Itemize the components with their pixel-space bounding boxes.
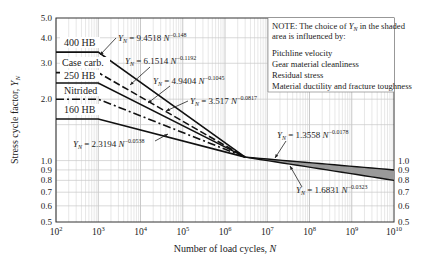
equation-label: YN = 4.9404 N−0.1045 bbox=[153, 75, 225, 87]
x-tick-label: 104 bbox=[134, 225, 148, 237]
note-line: area is influenced by: bbox=[272, 31, 346, 41]
arrowhead-icon bbox=[275, 154, 278, 158]
equation-label: YN = 6.1514 N−0.1192 bbox=[125, 55, 196, 67]
y-tick-label-right: 0.8 bbox=[398, 175, 410, 185]
y-tick-label-left: 2.0 bbox=[41, 94, 53, 104]
y-tick-label-left: 1.0 bbox=[41, 156, 53, 166]
y-tick-label-left: 0.8 bbox=[41, 175, 53, 185]
equation-label: YN = 3.517 N−0.0817 bbox=[190, 95, 257, 107]
material-label: 400 HB bbox=[64, 37, 96, 48]
x-tick-label: 108 bbox=[303, 225, 316, 237]
y-tick-label-left: 0.9 bbox=[41, 165, 53, 175]
equation-label: YN = 1.3558 N−0.0178 bbox=[277, 129, 349, 141]
y-tick-label-right: 1.0 bbox=[398, 156, 410, 166]
x-axis-label: Number of load cycles, N bbox=[174, 243, 278, 254]
note-line: Material ductility and fracture toughnes… bbox=[272, 81, 412, 91]
note-line: Pitchline velocity bbox=[272, 48, 333, 58]
stress-cycle-chart: 400 HBCase carb.250 HBNitrided160 HB NOT… bbox=[0, 0, 427, 263]
note-line: Gear material cleanliness bbox=[272, 59, 360, 69]
equation-label: YN = 1.6831 N−0.0323 bbox=[296, 184, 368, 196]
x-tick-label: 109 bbox=[345, 225, 358, 237]
x-tick-label: 106 bbox=[219, 225, 233, 237]
x-tick-label: 103 bbox=[92, 225, 105, 237]
y-tick-label-right: 0.5 bbox=[398, 217, 410, 227]
material-label: 160 HB bbox=[64, 104, 96, 115]
x-tick-label: 107 bbox=[261, 225, 275, 237]
y-tick-label-left: 0.7 bbox=[41, 187, 53, 197]
material-label: Nitrided bbox=[64, 85, 97, 96]
y-tick-label-left: 5.0 bbox=[41, 13, 53, 23]
y-tick-label-right: 0.9 bbox=[398, 165, 410, 175]
y-tick-label-left: 0.5 bbox=[41, 217, 53, 227]
material-label: Case carb. bbox=[62, 57, 104, 68]
y-axis-label: Stress cycle factor, YN bbox=[9, 76, 22, 164]
y-tick-label-left: 3.0 bbox=[41, 58, 53, 68]
y-tick-label-right: 0.6 bbox=[398, 201, 410, 211]
y-tick-label-left: 4.0 bbox=[41, 33, 53, 43]
y-tick-label-right: 0.7 bbox=[398, 187, 410, 197]
note-box: NOTE: The choice of YN in the shadedarea… bbox=[268, 18, 412, 92]
material-label: 250 HB bbox=[64, 70, 96, 81]
note-line: Residual stress bbox=[272, 70, 324, 80]
y-tick-label-left: 0.6 bbox=[41, 201, 53, 211]
x-tick-label: 105 bbox=[176, 225, 189, 237]
